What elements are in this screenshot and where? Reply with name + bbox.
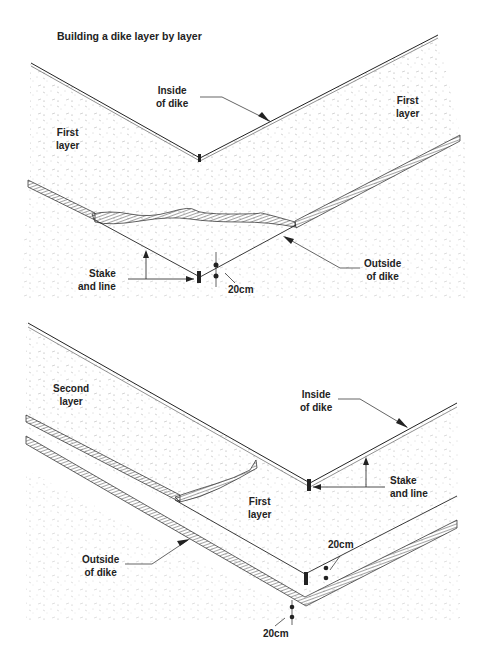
bottom-second-layer-surface — [26, 323, 310, 500]
bottom-dimension-lower-label: 20cm — [263, 627, 289, 640]
label-line: layer — [56, 139, 79, 152]
top-inside-leader — [200, 97, 270, 121]
top-inside-stake — [198, 154, 201, 162]
bottom-stake-and-line-label: Stake and line — [390, 474, 428, 500]
bottom-first-layer-label: First layer — [248, 495, 271, 521]
top-inside-of-dike-label: Inside of dike — [156, 84, 188, 110]
bottom-dim-lower-dot-1 — [290, 605, 295, 610]
bottom-dim-lower-dot-2 — [290, 615, 295, 620]
bottom-outside-of-dike-label: Outside of dike — [82, 553, 119, 579]
label-line: of dike — [82, 566, 119, 579]
label-line: of dike — [364, 270, 401, 283]
label-line: First — [396, 94, 419, 107]
label-line: Inside — [300, 388, 332, 401]
top-dim-dot-2 — [214, 274, 219, 279]
bottom-inside-of-dike-label: Inside of dike — [300, 388, 332, 414]
label-line: of dike — [156, 97, 188, 110]
bottom-dimension-upper-label: 20cm — [328, 538, 354, 551]
top-panel — [20, 35, 470, 300]
bottom-outside-arrowhead — [177, 539, 190, 546]
top-stake-and-line-label: Stake and line — [78, 267, 116, 293]
bottom-second-layer-label: Second layer — [53, 382, 89, 408]
diagram-title: Building a dike layer by layer — [57, 30, 202, 42]
label-line: and line — [78, 280, 116, 293]
label-line: Outside — [82, 553, 119, 566]
top-dim-dot-1 — [214, 263, 219, 268]
label-line: First — [248, 495, 271, 508]
top-outer-stake — [197, 271, 201, 283]
top-first-layer-left-label: First layer — [56, 126, 79, 152]
label-line: Inside — [156, 84, 188, 97]
bottom-outer-stake — [304, 572, 308, 585]
label-line: Stake — [390, 474, 428, 487]
bottom-dim-upper-dot-1 — [324, 566, 329, 571]
label-line: Stake — [78, 267, 116, 280]
label-line: Second — [53, 382, 89, 395]
bottom-inside-stake — [307, 479, 311, 491]
top-dimension-label: 20cm — [228, 283, 254, 296]
label-line: and line — [390, 487, 428, 500]
top-outside-of-dike-label: Outside of dike — [364, 257, 401, 283]
top-first-layer-right-label: First layer — [396, 94, 419, 120]
top-inside-arrowhead — [258, 112, 270, 122]
label-line: layer — [53, 395, 89, 408]
label-line: layer — [396, 107, 419, 120]
label-line: Outside — [364, 257, 401, 270]
bottom-inside-arrowhead — [396, 418, 408, 428]
label-line: of dike — [300, 401, 332, 414]
label-line: First — [56, 126, 79, 139]
bottom-dim-upper-dot-2 — [324, 576, 329, 581]
label-line: layer — [248, 508, 271, 521]
